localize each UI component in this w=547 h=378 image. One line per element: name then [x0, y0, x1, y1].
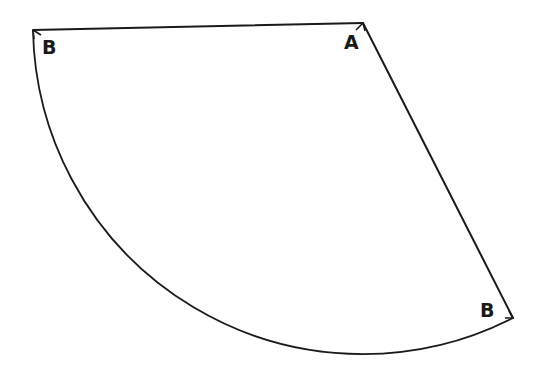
arrow-tick-right-icon — [505, 311, 513, 318]
arrow-tick-left-icon — [33, 30, 41, 39]
label-b-right: B — [480, 301, 494, 320]
edge-top — [33, 23, 363, 30]
edge-right — [363, 23, 513, 318]
arrow-tick-apex-icon — [356, 23, 365, 31]
label-b-left: B — [42, 38, 56, 57]
sector-diagram — [0, 0, 547, 378]
arc-edge — [33, 30, 513, 354]
label-a-apex: A — [344, 33, 359, 52]
